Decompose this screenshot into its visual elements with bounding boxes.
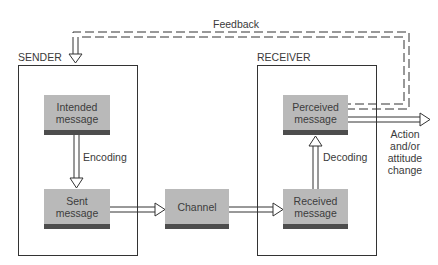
feedback-label: Feedback	[213, 18, 259, 30]
node-perceived-message: Perceivedmessage	[283, 95, 348, 135]
encoding-label: Encoding	[83, 151, 127, 163]
node-channel: Channel	[165, 189, 229, 229]
channel-to-received-arrow	[229, 203, 283, 216]
sent-to-channel-arrow	[110, 203, 165, 216]
decoding-arrow	[309, 136, 322, 190]
outcome-label: Action and/or attitude change	[383, 128, 427, 176]
node-intended-message: Intendedmessage	[44, 95, 110, 135]
node-received-message: Receivedmessage	[283, 189, 348, 229]
node-sent-message: Sentmessage	[44, 189, 110, 229]
outcome-arrow	[348, 113, 430, 126]
feedback-arrowhead	[69, 54, 82, 63]
encoding-arrow	[70, 135, 83, 188]
feedback-path	[73, 32, 409, 109]
decoding-label: Decoding	[323, 151, 367, 163]
